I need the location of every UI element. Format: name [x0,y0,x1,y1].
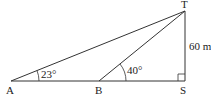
angle-label-b: 40° [127,64,142,76]
point-label-b: B [95,84,102,96]
angle-arc-a [37,71,39,82]
side-label-ts: 60 m [189,40,211,52]
point-label-s: S [180,84,186,96]
triangle-diagram: T A B S 23° 40° 60 m [0,0,211,97]
point-label-t: T [181,0,188,10]
right-angle-marker [178,74,185,81]
angle-arc-b [120,64,126,81]
angle-label-a: 23° [41,68,56,80]
point-label-a: A [6,84,14,96]
